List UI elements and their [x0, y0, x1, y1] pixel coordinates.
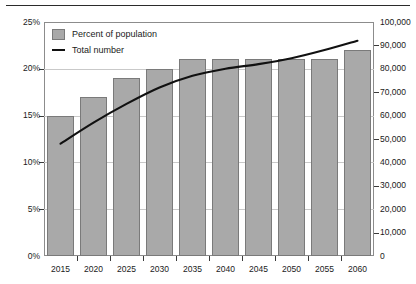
x-axis-tick — [341, 256, 342, 261]
legend-item-total-number: Total number — [52, 42, 202, 58]
bar-2060 — [344, 50, 372, 256]
bar-2045 — [245, 59, 273, 256]
x-axis-tick — [77, 256, 78, 261]
x-axis-tick — [242, 256, 243, 261]
bar-2025 — [113, 78, 141, 256]
bar-2020 — [80, 97, 108, 256]
x-axis-tick — [110, 256, 111, 261]
x-axis-tick-label: 2020 — [77, 265, 110, 274]
x-axis-tick — [209, 256, 210, 261]
x-axis-tick — [275, 256, 276, 261]
left-axis-tick-label: 20% — [2, 64, 40, 73]
x-axis-tick — [308, 256, 309, 261]
bar-2015 — [47, 116, 75, 256]
legend-item-percent-of-population: Percent of population — [52, 26, 202, 42]
left-axis-tick-label: 25% — [2, 18, 40, 27]
x-axis-tick-label: 2015 — [44, 265, 77, 274]
right-axis-tick — [374, 92, 379, 93]
right-axis-tick-label: 80,000 — [380, 64, 406, 73]
chart-legend: Percent of population Total number — [52, 26, 202, 58]
right-axis-tick-label: 90,000 — [380, 41, 406, 50]
left-axis-tick-label: 0% — [2, 252, 40, 261]
x-axis-tick-label: 2055 — [308, 265, 341, 274]
bar-2050 — [278, 59, 306, 256]
x-axis-tick — [143, 256, 144, 261]
left-axis-tick-label: 10% — [2, 158, 40, 167]
right-axis-tick-label: 100,000 — [380, 18, 411, 27]
right-axis-tick-label: 60,000 — [380, 111, 406, 120]
right-axis-tick — [374, 139, 379, 140]
x-axis-tick-label: 2025 — [110, 265, 143, 274]
x-axis-tick-label: 2035 — [176, 265, 209, 274]
x-axis-tick-label: 2040 — [209, 265, 242, 274]
left-axis-tick-label: 15% — [2, 111, 40, 120]
right-axis-tick-label: 30,000 — [380, 181, 406, 190]
right-axis-tick-label: 10,000 — [380, 228, 406, 237]
right-axis-tick-label: 50,000 — [380, 135, 406, 144]
bar-2040 — [212, 59, 240, 256]
right-axis-tick — [374, 45, 379, 46]
top-divider-rule — [6, 5, 410, 6]
right-axis-tick-label: 0 — [380, 252, 385, 261]
bar-2055 — [311, 59, 339, 256]
right-axis-tick-label: 70,000 — [380, 88, 406, 97]
bar-2035 — [179, 59, 207, 256]
x-axis-tick-label: 2030 — [143, 265, 176, 274]
chart-container: 0%5%10%15%20%25% 010,00020,00030,00040,0… — [0, 0, 416, 284]
right-axis-tick — [374, 186, 379, 187]
bar-2030 — [146, 69, 174, 256]
right-axis-tick — [374, 233, 379, 234]
x-axis-tick-label: 2045 — [242, 265, 275, 274]
right-axis-tick-label: 40,000 — [380, 158, 406, 167]
legend-line-icon — [52, 49, 65, 51]
legend-label: Percent of population — [72, 30, 157, 39]
x-axis-tick — [176, 256, 177, 261]
legend-swatch-icon — [52, 29, 65, 40]
legend-label: Total number — [72, 46, 124, 55]
right-axis-tick-label: 20,000 — [380, 205, 406, 214]
x-axis-tick-label: 2060 — [341, 265, 374, 274]
x-axis-tick-label: 2050 — [275, 265, 308, 274]
left-axis-tick-label: 5% — [2, 205, 40, 214]
